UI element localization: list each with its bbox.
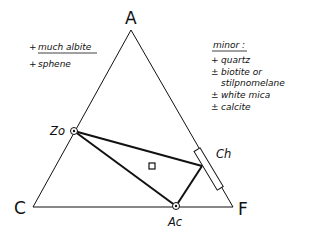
edge-a-c <box>33 30 131 207</box>
right-notes: minor : + quartz ± biotite or stilpnomel… <box>211 40 285 112</box>
left-notes: + much albite + sphene <box>29 42 97 69</box>
left-note-prefix-1: + <box>29 59 37 69</box>
right-note-text-4: calcite <box>221 102 251 112</box>
ternary-triangle <box>33 30 233 207</box>
tie-lines <box>74 131 202 206</box>
tie-line-ac-ch <box>176 166 202 206</box>
right-note-prefix-3: ± <box>211 90 219 100</box>
right-note-text-0: quartz <box>221 55 250 65</box>
left-note-text-1: sphene <box>38 59 71 69</box>
right-note-text-1: biotite or <box>221 67 263 77</box>
vertex-label-f: F <box>238 199 248 219</box>
phase-label-zo: Zo <box>49 124 65 138</box>
phase-label-ch: Ch <box>216 147 231 161</box>
rock-composition-square <box>149 163 155 169</box>
acf-diagram: A C F Zo Ac Ch + much albite + sphene mi… <box>0 0 314 237</box>
vertex-label-a: A <box>125 8 137 28</box>
zo-point <box>71 128 78 135</box>
vertex-label-c: C <box>14 198 26 218</box>
right-note-prefix-0: + <box>211 55 219 65</box>
right-note-prefix-1: ± <box>211 67 219 77</box>
right-note-prefix-4: ± <box>211 102 219 112</box>
right-note-text-2: stilpnomelane <box>221 78 285 88</box>
right-note-text-3: white mica <box>221 90 270 100</box>
zo-point-dot <box>73 130 75 132</box>
ac-point-dot <box>175 205 177 207</box>
phase-label-ac: Ac <box>167 215 183 229</box>
right-notes-heading: minor : <box>213 40 245 50</box>
left-note-text-0: much albite <box>38 42 92 52</box>
ac-point <box>173 203 180 210</box>
left-note-prefix-0: + <box>29 42 37 52</box>
tie-line-zo-ac <box>74 131 176 206</box>
tie-line-zo-ch <box>74 131 202 166</box>
